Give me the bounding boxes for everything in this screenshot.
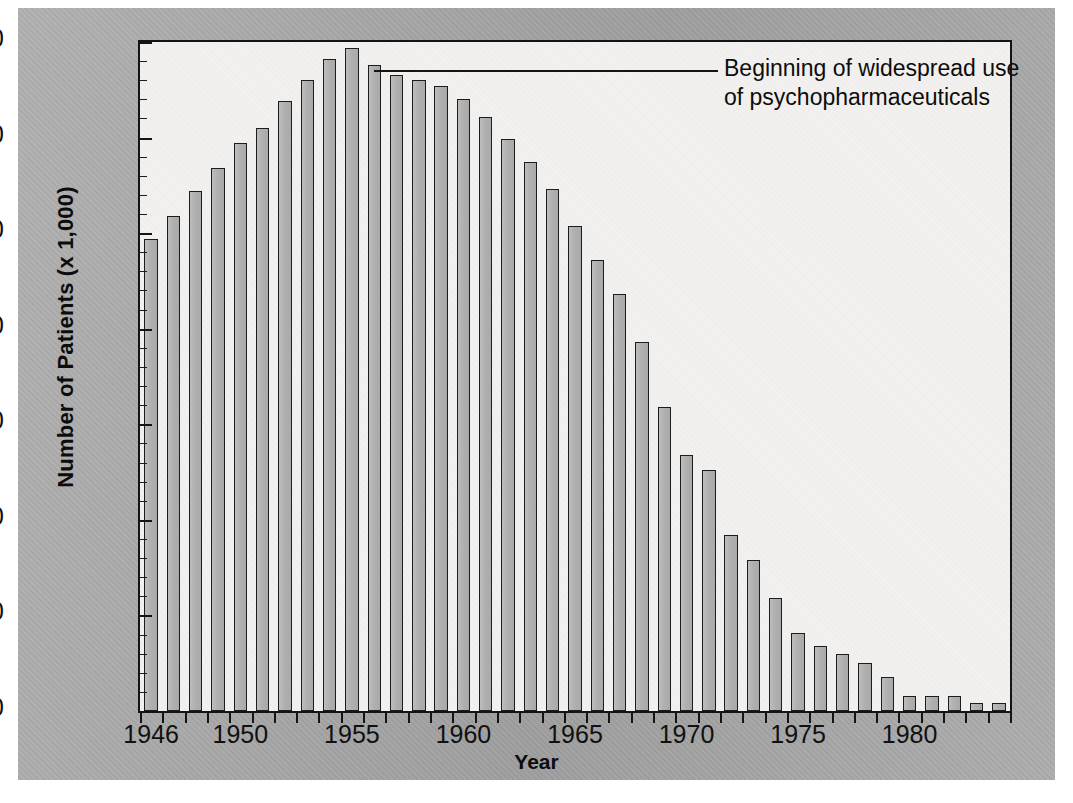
y-tick-minor — [139, 348, 147, 349]
plot-area — [138, 40, 1012, 713]
bar — [769, 598, 782, 711]
y-tick-major — [139, 329, 152, 331]
y-tick-label: 500 — [0, 120, 4, 149]
bar — [591, 260, 604, 711]
bar — [791, 633, 804, 711]
bar — [658, 407, 671, 711]
y-tick-label: 200 — [0, 693, 4, 722]
y-tick-minor — [139, 539, 147, 540]
bar — [479, 117, 492, 711]
y-tick-major — [139, 424, 152, 426]
y-tick-minor — [139, 482, 147, 483]
bar — [568, 226, 581, 712]
y-tick-minor — [139, 635, 147, 636]
bar — [724, 535, 737, 711]
y-tick-minor — [139, 310, 147, 311]
y-tick-minor — [139, 367, 147, 368]
bar — [278, 101, 291, 711]
y-tick-minor — [139, 386, 147, 387]
y-tick-minor — [139, 577, 147, 578]
bar — [881, 677, 894, 711]
y-tick-minor — [139, 654, 147, 655]
y-tick-minor — [139, 214, 147, 215]
y-tick-label: 400 — [0, 311, 4, 340]
y-tick-minor — [139, 99, 147, 100]
y-tick-minor — [139, 290, 147, 291]
y-tick-major — [139, 615, 152, 617]
bar — [524, 162, 537, 711]
y-tick-label: 300 — [0, 502, 4, 531]
bar — [903, 696, 916, 711]
bar — [256, 128, 269, 711]
y-tick-minor — [139, 80, 147, 81]
bar-series — [140, 42, 1010, 711]
bar — [613, 294, 626, 711]
bar — [858, 663, 871, 711]
x-tick-label: 1946 — [109, 720, 193, 749]
bar — [301, 80, 314, 711]
y-tick-minor — [139, 501, 147, 502]
x-tick-label: 1970 — [645, 720, 729, 749]
annotation-label: Beginning of widespread use of psychopha… — [724, 54, 1019, 112]
y-tick-minor — [139, 195, 147, 196]
bar — [412, 80, 425, 711]
bar — [501, 139, 514, 711]
y-tick-minor — [139, 463, 147, 464]
y-tick-minor — [139, 558, 147, 559]
y-tick-label: 350 — [0, 406, 4, 435]
bar — [323, 59, 336, 711]
bar — [747, 560, 760, 711]
bar — [167, 216, 180, 711]
y-tick-major — [139, 233, 152, 235]
y-tick-minor — [139, 405, 147, 406]
x-tick-label: 1965 — [533, 720, 617, 749]
y-tick-minor — [139, 271, 147, 272]
bar — [680, 455, 693, 711]
y-tick-minor — [139, 61, 147, 62]
x-tick-label: 1975 — [756, 720, 840, 749]
bar — [992, 703, 1005, 711]
y-tick-minor — [139, 118, 147, 119]
y-tick-minor — [139, 692, 147, 693]
bar — [948, 696, 961, 711]
bar — [702, 470, 715, 711]
bar — [457, 99, 470, 711]
bar — [390, 75, 403, 712]
y-tick-major — [139, 138, 152, 140]
bar — [189, 191, 202, 711]
bar — [368, 65, 381, 711]
bar — [635, 342, 648, 711]
annotation-leader-line — [374, 70, 718, 72]
y-tick-minor — [139, 673, 147, 674]
bar — [434, 86, 447, 711]
bar — [234, 143, 247, 711]
y-tick-major — [139, 42, 152, 44]
bar — [345, 48, 358, 711]
y-tick-minor — [139, 443, 147, 444]
x-tick-label: 1950 — [198, 720, 282, 749]
y-tick-minor — [139, 157, 147, 158]
y-tick-label: 250 — [0, 597, 4, 626]
y-tick-label: 450 — [0, 215, 4, 244]
y-tick-label: 550 — [0, 24, 4, 53]
x-axis-labels: 19461950195519601965197019751980 — [138, 720, 1012, 754]
bar — [836, 654, 849, 711]
y-axis-title: Number of Patients (x 1,000) — [53, 57, 79, 617]
x-tick-label: 1980 — [868, 720, 952, 749]
bar — [925, 696, 938, 711]
y-tick-minor — [139, 596, 147, 597]
x-tick-label: 1960 — [421, 720, 505, 749]
x-axis-title: Year — [18, 750, 1055, 774]
y-tick-major — [139, 520, 152, 522]
bar — [211, 168, 224, 711]
bar — [546, 189, 559, 711]
bar — [814, 646, 827, 711]
y-tick-minor — [139, 176, 147, 177]
x-tick-label: 1955 — [310, 720, 394, 749]
figure-panel: 200250300350400450500550 194619501955196… — [18, 8, 1055, 780]
y-tick-minor — [139, 252, 147, 253]
bar — [970, 703, 983, 711]
